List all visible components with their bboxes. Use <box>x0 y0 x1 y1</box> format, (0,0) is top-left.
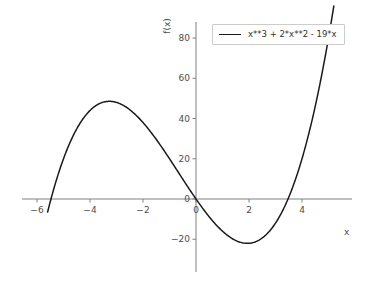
x-tick-marks <box>37 199 302 203</box>
x-tick-label: 4 <box>299 206 305 215</box>
x-tick-label: −2 <box>136 206 149 215</box>
y-tick-label: 40 <box>179 114 190 123</box>
legend-line-swatch <box>219 34 241 35</box>
y-tick-label: −20 <box>171 235 190 244</box>
y-tick-label: 0 <box>184 195 190 204</box>
figure: −6−4−2024 −20020406080 f(x) x x**3 + 2*x… <box>0 0 370 290</box>
y-tick-label: 20 <box>179 154 190 163</box>
y-axis-label: f(x) <box>163 18 172 34</box>
x-tick-label: 2 <box>246 206 252 215</box>
y-tick-label: 80 <box>179 34 190 43</box>
legend-entry-label: x**3 + 2*x**2 - 19*x <box>248 30 337 39</box>
legend: x**3 + 2*x**2 - 19*x <box>212 24 345 45</box>
x-tick-label: 0 <box>193 206 199 215</box>
x-axis-label: x <box>344 228 349 237</box>
x-tick-label: −6 <box>30 206 43 215</box>
x-tick-label: −4 <box>83 206 96 215</box>
y-tick-label: 60 <box>179 74 190 83</box>
